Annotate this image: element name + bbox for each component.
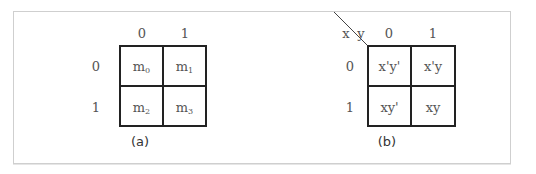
- cell-x-y: xy: [412, 101, 454, 115]
- col-variable-label: y: [355, 27, 367, 41]
- cell-x-prime-y-prime: x'y': [369, 60, 410, 74]
- cell-x-prime-y: x'y: [412, 60, 454, 74]
- row-variable-label: x: [340, 27, 352, 41]
- col-header-0: 0: [379, 27, 399, 41]
- row-header-0: 0: [342, 60, 358, 74]
- col-header-1: 1: [423, 27, 443, 41]
- grid-divider-horizontal: [367, 85, 456, 87]
- cell-x-y-prime: xy': [369, 101, 410, 115]
- caption-b: (b): [372, 134, 402, 149]
- row-header-1: 1: [342, 101, 358, 115]
